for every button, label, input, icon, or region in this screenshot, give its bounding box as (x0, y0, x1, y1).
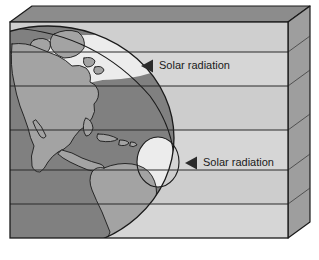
solar-radiation-diagram: Solar radiation Solar radiation (0, 0, 319, 260)
landmass-iceland (94, 66, 104, 74)
slab-top-face (10, 6, 310, 22)
diagram-canvas: Solar radiation Solar radiation (0, 0, 319, 260)
solar-radiation-label-upper-text: Solar radiation (159, 59, 230, 71)
solar-radiation-label-lower-text: Solar radiation (203, 156, 274, 168)
